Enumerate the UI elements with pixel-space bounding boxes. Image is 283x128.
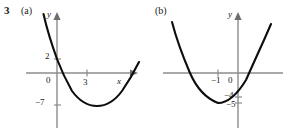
graph-b-x-tick-label: −1 xyxy=(211,76,221,85)
graph-b-y-axis xyxy=(234,12,241,128)
graph-b-plot xyxy=(0,0,283,128)
graph-b-origin-label: 0 xyxy=(228,76,233,85)
figure-container: 3 (a) x y 2 0 3 −7 (b) xyxy=(0,0,283,128)
graph-b-curve xyxy=(172,22,271,103)
graph-b-y-axis-label: y xyxy=(228,10,232,19)
graph-b-minimum-label: −5 xyxy=(226,100,236,109)
